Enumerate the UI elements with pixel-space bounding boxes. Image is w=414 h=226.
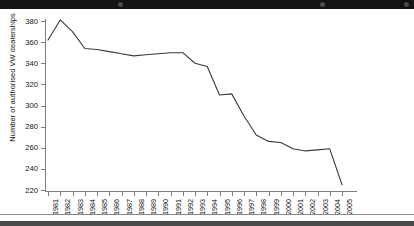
x-tick-mark (134, 192, 135, 196)
x-tick-label: 1984 (88, 199, 97, 215)
x-tick-mark (171, 192, 172, 196)
x-tick-label: 1994 (210, 199, 219, 215)
x-tick-mark (158, 192, 159, 196)
y-tick-label: 320 (0, 80, 38, 89)
y-tick-label: 280 (0, 122, 38, 131)
x-tick-mark (122, 192, 123, 196)
x-axis-line (45, 191, 357, 192)
x-tick-label: 1991 (174, 199, 183, 215)
x-tick-label: 1989 (149, 199, 158, 215)
x-tick-label: 1981 (51, 199, 60, 215)
x-tick-label: 1985 (100, 199, 109, 215)
x-tick-mark (97, 192, 98, 196)
x-tick-label: 1988 (137, 199, 146, 215)
y-tick-mark (41, 190, 45, 191)
x-tick-label: 1987 (125, 199, 134, 215)
y-tick-label: 380 (0, 17, 38, 26)
x-tick-mark (342, 192, 343, 196)
x-tick-mark (48, 192, 49, 196)
y-tick-label: 220 (0, 186, 38, 195)
x-tick-label: 1997 (247, 199, 256, 215)
x-tick-mark (244, 192, 245, 196)
x-tick-label: 2001 (296, 199, 305, 215)
x-tick-label: 2003 (321, 199, 330, 215)
x-tick-mark (207, 192, 208, 196)
x-tick-mark (73, 192, 74, 196)
x-tick-label: 1990 (161, 199, 170, 215)
x-tick-mark (109, 192, 110, 196)
x-tick-label: 1992 (186, 199, 195, 215)
x-tick-label: 2004 (333, 199, 342, 215)
x-tick-label: 1995 (223, 199, 232, 215)
x-tick-mark (220, 192, 221, 196)
x-tick-mark (183, 192, 184, 196)
x-tick-mark (256, 192, 257, 196)
chart-figure: Number of authorised VW dealerships 2202… (0, 9, 414, 221)
plot-area (45, 21, 355, 190)
y-tick-label: 240 (0, 164, 38, 173)
y-tick-label: 300 (0, 101, 38, 110)
figure-baseline-rule (0, 214, 414, 215)
window-bottom-bar (0, 221, 414, 226)
series-polyline (48, 20, 342, 185)
x-tick-mark (293, 192, 294, 196)
x-tick-label: 2002 (308, 199, 317, 215)
x-tick-mark (281, 192, 282, 196)
x-tick-mark (232, 192, 233, 196)
x-tick-label: 1982 (63, 199, 72, 215)
titlebar-dot-left (118, 2, 123, 7)
x-tick-label: 1998 (259, 199, 268, 215)
x-tick-mark (269, 192, 270, 196)
y-tick-label: 340 (0, 59, 38, 68)
x-tick-label: 1996 (235, 199, 244, 215)
x-tick-label: 1983 (76, 199, 85, 215)
x-tick-mark (195, 192, 196, 196)
y-tick-label: 260 (0, 143, 38, 152)
x-tick-label: 1986 (112, 199, 121, 215)
x-tick-mark (146, 192, 147, 196)
y-tick-label: 360 (0, 38, 38, 47)
x-tick-label: 1999 (272, 199, 281, 215)
x-tick-label: 2005 (345, 199, 354, 215)
x-tick-mark (318, 192, 319, 196)
line-series-dealerships (45, 21, 355, 190)
x-tick-mark (305, 192, 306, 196)
titlebar-dot-right (404, 2, 409, 7)
x-tick-label: 1993 (198, 199, 207, 215)
x-tick-label: 2000 (284, 199, 293, 215)
x-tick-mark (330, 192, 331, 196)
titlebar-dot-mid (320, 2, 325, 7)
window-title-bar (0, 0, 414, 9)
x-tick-mark (60, 192, 61, 196)
x-tick-mark (85, 192, 86, 196)
